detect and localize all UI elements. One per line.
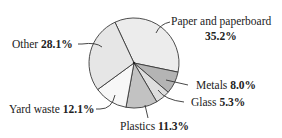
label-paper: Paper and paperboard (171, 15, 271, 28)
label-glass: Glass 5.3% (191, 96, 245, 109)
label-paper-name: Paper and paperboard (171, 15, 271, 27)
label-paper-value: 35.2% (205, 30, 237, 42)
label-other-value: 28.1% (41, 38, 73, 50)
pie-slices (89, 18, 179, 108)
label-yard: Yard waste 12.1% (9, 103, 94, 116)
label-yard-value: 12.1% (63, 103, 95, 115)
label-plastics-name: Plastics (120, 120, 155, 132)
label-other-name: Other (12, 38, 38, 50)
label-paper-pct: 35.2% (205, 30, 237, 43)
label-metals-name: Metals (196, 79, 227, 91)
label-metals-value: 8.0% (230, 79, 256, 91)
label-plastics: Plastics 11.3% (120, 120, 189, 133)
label-yard-name: Yard waste (9, 103, 60, 115)
label-glass-name: Glass (191, 96, 217, 108)
label-plastics-value: 11.3% (158, 120, 189, 132)
label-glass-value: 5.3% (219, 96, 245, 108)
label-metals: Metals 8.0% (196, 79, 256, 92)
label-other: Other 28.1% (12, 38, 73, 51)
pie-center-dot (133, 62, 135, 64)
leader-plastics (145, 105, 148, 118)
